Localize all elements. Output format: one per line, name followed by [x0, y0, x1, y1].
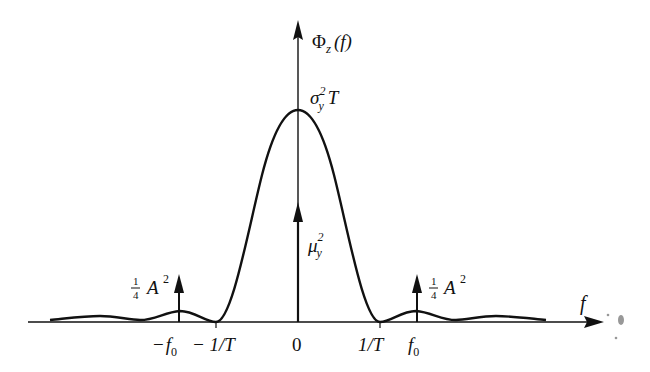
tick-label-zero: 0: [292, 334, 302, 355]
svg-text:2: 2: [163, 272, 169, 286]
psd-diagram: Φz(f) σ2yT μ2y 1 4 A 2 1 4 A 2 f −f0 − 1…: [0, 0, 650, 372]
svg-text:4: 4: [133, 289, 139, 301]
neg-f0-impulse-label: 1 4 A 2: [131, 272, 169, 301]
impulse-dc-arrow-icon: [293, 202, 303, 222]
tick-label-f0: f0: [408, 334, 419, 359]
svg-text:4: 4: [431, 289, 437, 301]
tick-label-inv-T: 1/T: [358, 334, 385, 355]
dc-impulse-label: μ2y: [307, 230, 324, 260]
tick-label-neg-inv-T: − 1/T: [192, 334, 236, 355]
f-axis-arrow-icon: [584, 316, 604, 328]
f0-impulse-label: 1 4 A 2: [429, 272, 466, 301]
svg-text:A: A: [442, 277, 456, 298]
tick-label-neg-f0: −f0: [153, 334, 177, 359]
phi-axis-arrow-icon: [293, 20, 303, 40]
impulse-f0-arrow-icon: [412, 274, 422, 293]
impulse-neg-f0-arrow-icon: [174, 274, 184, 293]
y-axis-label: Φz(f): [312, 31, 352, 56]
svg-text:A: A: [145, 277, 159, 298]
svg-text:1: 1: [133, 275, 139, 287]
svg-text:1: 1: [431, 275, 437, 287]
peak-label: σ2yT: [310, 84, 340, 113]
x-axis-label: f: [580, 292, 588, 315]
scan-artifact: [607, 314, 624, 340]
svg-text:2: 2: [460, 272, 466, 286]
